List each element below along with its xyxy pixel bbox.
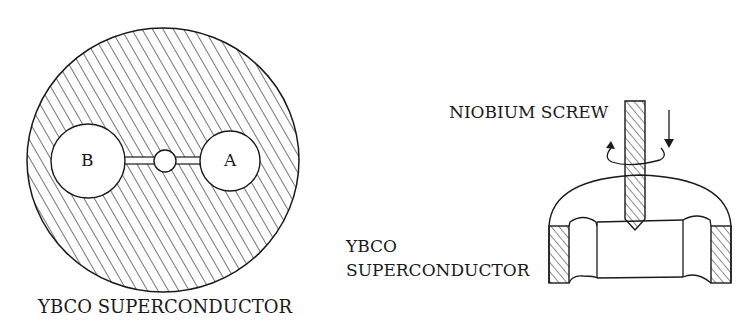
- down-arrow-icon: [664, 110, 674, 148]
- material-label-line2: SUPERCONDUCTOR: [346, 262, 529, 279]
- cavity-a-label: A: [224, 152, 236, 169]
- material-label-line1: YBCO: [346, 238, 397, 255]
- niobium-screw: [625, 101, 645, 230]
- cavity-cross-section: [569, 216, 711, 283]
- left-caption: YBCO SUPERCONDUCTOR: [38, 298, 292, 316]
- cavity-b-label: B: [81, 152, 94, 169]
- screw-label: NIOBIUM SCREW: [449, 104, 608, 121]
- ybco-disc: [27, 28, 299, 292]
- ybco-wall-right: [711, 226, 731, 283]
- ybco-wall-left: [549, 226, 569, 283]
